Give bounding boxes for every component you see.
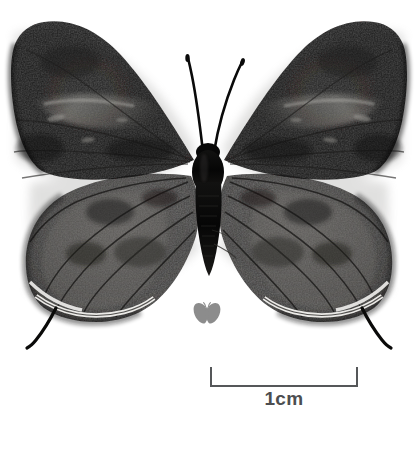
- scale-bar-tick-right: [356, 367, 358, 387]
- scale-bar: 1cm: [206, 364, 362, 416]
- scale-bar-line: [210, 385, 358, 387]
- butterfly-logo-shape: [194, 303, 221, 324]
- butterfly-logo-watermark: [192, 302, 222, 328]
- left-antenna-club: [185, 54, 189, 62]
- scale-bar-label: 1cm: [206, 388, 362, 410]
- specimen-plate: 1cm: [0, 0, 419, 468]
- scale-bar-tick-left: [210, 367, 212, 387]
